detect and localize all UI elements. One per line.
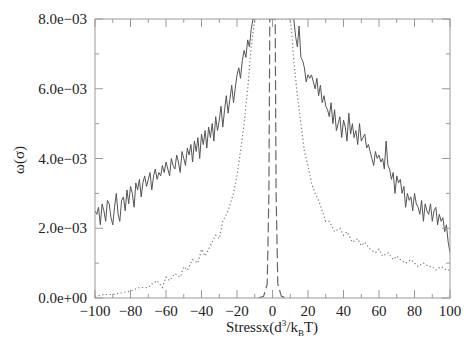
x-axis-title: Stressx(d3/kBT) [226, 318, 318, 338]
x-tick-label: 60 [372, 303, 387, 319]
series-dotted [95, 19, 450, 296]
y-tick-label: 4.0e−03 [38, 151, 87, 167]
x-axis: −100−80−60−40−20020406080100 [80, 19, 462, 319]
y-tick-label: 8.0e−03 [38, 11, 87, 27]
series-solid [95, 19, 255, 225]
y-tick-label: 6.0e−03 [38, 81, 87, 97]
x-tick-label: 80 [407, 303, 422, 319]
x-tick-label: 40 [336, 303, 351, 319]
x-tick-label: 0 [269, 303, 277, 319]
x-tick-label: −60 [154, 303, 177, 319]
x-tick-label: 20 [301, 303, 316, 319]
series-layer [95, 19, 450, 298]
x-tick-label: 100 [439, 303, 462, 319]
y-axis: 0.0e+002.0e−034.0e−036.0e−038.0e−03 [38, 11, 450, 306]
series-solid-right [294, 19, 450, 253]
y-tick-label: 0.0e+00 [38, 290, 87, 306]
y-tick-label: 2.0e−03 [38, 220, 87, 236]
x-tick-label: −40 [190, 303, 213, 319]
plot-frame [95, 19, 450, 298]
x-tick-label: −80 [119, 303, 142, 319]
series-dashed [258, 19, 286, 298]
y-axis-title: ω(σ) [11, 146, 28, 174]
x-tick-label: −20 [225, 303, 248, 319]
chart: −100−80−60−40−20020406080100 0.0e+002.0e… [0, 0, 469, 346]
